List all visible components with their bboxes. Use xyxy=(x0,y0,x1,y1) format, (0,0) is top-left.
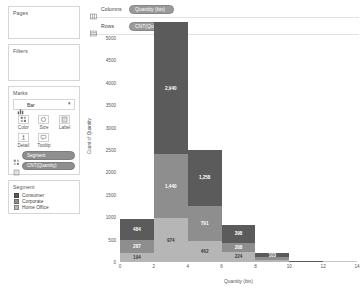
bar-value-label: 194 xyxy=(133,255,141,260)
filters-dropzone[interactable] xyxy=(9,56,79,80)
x-tick-label: 8 xyxy=(254,264,257,269)
bar-segment[interactable]: 791 xyxy=(188,206,222,241)
color-legend: Segment Consumer Corporate Home Office xyxy=(8,180,80,214)
bar-value-label: 2,940 xyxy=(165,86,177,91)
label-pill-icon xyxy=(13,162,20,169)
bar-segment[interactable]: 1,440 xyxy=(154,154,188,219)
bar-value-label: 791 xyxy=(201,221,209,226)
rows-label: Rows xyxy=(101,23,125,29)
x-tick-label: 0 xyxy=(119,264,122,269)
bar-segment[interactable]: 224 xyxy=(222,252,256,262)
x-tick-label: 2 xyxy=(153,264,156,269)
y-tick-label: 2500 xyxy=(106,148,116,153)
bar-segment[interactable]: 103 xyxy=(255,253,289,258)
shelf-area: Columns Quantity (bin) Rows CNT(Quantity… xyxy=(86,0,363,35)
marks-color-pill-row[interactable]: Segment xyxy=(9,150,79,161)
bar-stack[interactable]: 103 xyxy=(255,253,289,262)
rows-shelf[interactable]: Rows CNT(Quantity) xyxy=(90,20,359,32)
marks-label-button[interactable]: Label xyxy=(54,114,75,132)
label-icon xyxy=(59,115,70,124)
mark-type-dropdown[interactable]: Bar ▾ xyxy=(13,99,75,110)
x-tick-label: 6 xyxy=(220,264,223,269)
marks-title: Marks xyxy=(9,87,79,98)
y-tick-label: 1500 xyxy=(106,192,116,197)
bar-segment[interactable] xyxy=(255,257,289,260)
bar-stack[interactable] xyxy=(289,261,323,262)
size-icon xyxy=(38,115,49,124)
marks-card: Marks Bar ▾ xyxy=(8,86,80,175)
mark-type-label: Bar xyxy=(27,102,65,108)
columns-pill-quantity-bin[interactable]: Quantity (bin) xyxy=(129,5,174,14)
y-tick-label: 1000 xyxy=(106,215,116,220)
marks-tooltip-button[interactable]: Tooltip xyxy=(34,132,55,150)
bar-value-label: 1,258 xyxy=(199,175,211,180)
marks-color-label: Color xyxy=(18,125,29,130)
bar-mark-icon xyxy=(17,101,24,108)
filters-shelf[interactable]: Filters xyxy=(8,44,80,81)
legend-title: Segment xyxy=(9,181,79,192)
bar-segment[interactable]: 462 xyxy=(188,241,222,262)
filters-title: Filters xyxy=(9,45,79,56)
bar-segment[interactable] xyxy=(255,260,289,262)
pages-dropzone[interactable] xyxy=(9,18,79,38)
columns-shelf[interactable]: Columns Quantity (bin) xyxy=(90,3,359,15)
bar-segment[interactable]: 484 xyxy=(120,219,154,241)
left-sidebar: Pages Filters Marks Bar ▾ xyxy=(0,0,86,292)
bar-stack[interactable]: 224208398 xyxy=(222,225,256,262)
bar-stack[interactable]: 194287484 xyxy=(120,219,154,262)
marks-pill-cnt-quantity[interactable]: CNT(Quantity) xyxy=(22,162,75,171)
legend-swatch-consumer xyxy=(14,193,19,198)
marks-size-label: Size xyxy=(40,125,49,130)
bar-value-label: 398 xyxy=(235,231,243,236)
tableau-worksheet: Pages Filters Marks Bar ▾ xyxy=(0,0,363,292)
bar-segment[interactable] xyxy=(289,261,323,262)
marks-pill-segment[interactable]: Segment xyxy=(22,151,75,160)
marks-size-button[interactable]: Size xyxy=(34,114,55,132)
pages-title: Pages xyxy=(9,7,79,18)
bar-segment[interactable]: 974 xyxy=(154,218,188,262)
bar-value-label: 974 xyxy=(167,238,175,243)
marks-color-button[interactable]: Color xyxy=(13,114,34,132)
mark-buttons-group: Color Size xyxy=(9,114,79,150)
y-tick-label: 4500 xyxy=(106,58,116,63)
legend-swatch-corporate xyxy=(14,199,19,204)
legend-item-home-office[interactable]: Home Office xyxy=(9,204,79,210)
y-axis-ticks: 0500100015002000250030003500400045005000 xyxy=(90,34,116,292)
color-pill-icon xyxy=(13,152,20,159)
marks-detail-label: Detail xyxy=(17,143,29,148)
x-tick-label: 10 xyxy=(287,264,292,269)
marks-detail-button[interactable]: Detail xyxy=(13,132,34,150)
x-axis-title: Quantity (bin) xyxy=(120,279,357,284)
y-tick-label: 0 xyxy=(113,260,116,265)
y-tick-label: 500 xyxy=(108,237,116,242)
bar-value-label: 103 xyxy=(269,253,277,258)
marks-label-pill-row[interactable]: CNT(Quantity) xyxy=(9,161,79,172)
bar-segment[interactable]: 287 xyxy=(120,240,154,253)
marks-label-label: Label xyxy=(59,125,70,130)
color-icon xyxy=(18,115,29,124)
bar-stack[interactable]: 9741,4402,940 xyxy=(154,22,188,262)
bar-segment[interactable]: 1,258 xyxy=(188,150,222,206)
bar-value-label: 1,440 xyxy=(165,184,177,189)
x-tick-label: 14 xyxy=(354,264,359,269)
detail-icon xyxy=(18,133,29,142)
pages-shelf[interactable]: Pages xyxy=(8,6,80,39)
legend-swatch-home-office xyxy=(14,205,19,210)
y-tick-label: 3500 xyxy=(106,103,116,108)
x-tick-label: 4 xyxy=(186,264,189,269)
y-tick-label: 5000 xyxy=(106,36,116,41)
x-axis-ticks: 02468101214 xyxy=(120,264,357,274)
bar-segment[interactable]: 398 xyxy=(222,225,256,243)
chevron-down-icon[interactable]: ▾ xyxy=(68,102,71,107)
shelf-divider xyxy=(90,17,359,18)
chart-canvas: Count of Quantity 0500100015002000250030… xyxy=(86,34,363,292)
bar-segment[interactable]: 194 xyxy=(120,253,154,262)
legend-label-corporate: Corporate xyxy=(22,199,43,204)
columns-icon xyxy=(90,6,97,13)
bar-segment[interactable]: 2,940 xyxy=(154,22,188,154)
bar-value-label: 484 xyxy=(133,227,141,232)
plot-area: 1942874849741,4402,9404627911,2582242083… xyxy=(120,38,357,262)
bar-segment[interactable]: 208 xyxy=(222,243,256,252)
worksheet-pane: Columns Quantity (bin) Rows CNT(Quantity… xyxy=(86,0,363,292)
bar-stack[interactable]: 4627911,258 xyxy=(188,150,222,262)
